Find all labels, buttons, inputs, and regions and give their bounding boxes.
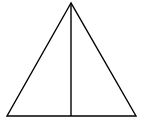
diagram-canvas — [0, 0, 142, 120]
triangle-diagram — [0, 0, 142, 120]
